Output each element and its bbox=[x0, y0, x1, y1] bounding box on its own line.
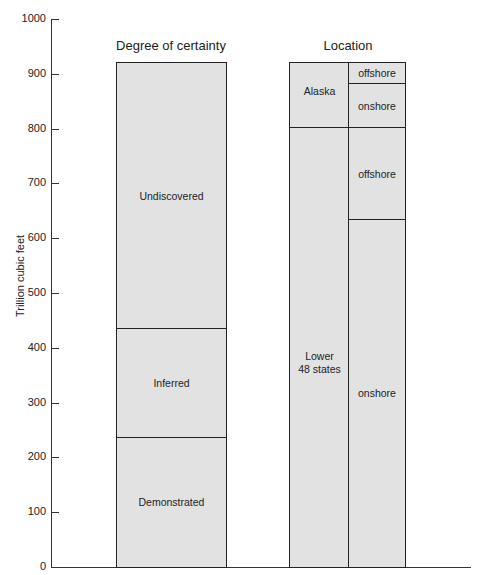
y-tick bbox=[52, 348, 59, 349]
y-tick bbox=[52, 567, 59, 568]
y-tick bbox=[52, 512, 59, 513]
y-tick bbox=[52, 183, 59, 184]
title-degree-of-certainty: Degree of certainty bbox=[100, 38, 242, 53]
label-lower48-2: 48 states bbox=[298, 363, 341, 376]
label-onshore: onshore bbox=[358, 100, 396, 113]
y-tick-label: 600 bbox=[10, 231, 46, 243]
label-lower48-1: Lower bbox=[305, 350, 334, 363]
y-tick bbox=[52, 129, 59, 130]
label-alaska: Alaska bbox=[304, 85, 336, 98]
y-tick-label: 900 bbox=[10, 67, 46, 79]
y-tick-label: 200 bbox=[10, 450, 46, 462]
segment-alaska-offshore: offshore bbox=[348, 62, 406, 85]
y-tick bbox=[52, 403, 59, 404]
segment-undiscovered: Undiscovered bbox=[116, 62, 227, 330]
y-tick-label: 400 bbox=[10, 341, 46, 353]
title-location: Location bbox=[290, 38, 406, 53]
label-demonstrated: Demonstrated bbox=[139, 496, 205, 509]
y-tick-label: 0 bbox=[10, 560, 46, 572]
segment-demonstrated: Demonstrated bbox=[116, 437, 227, 568]
label-undiscovered: Undiscovered bbox=[139, 190, 203, 203]
x-axis bbox=[51, 567, 471, 568]
segment-lower48-offshore: offshore bbox=[348, 127, 406, 221]
segment-lower48-onshore: onshore bbox=[348, 219, 406, 568]
y-tick-label: 700 bbox=[10, 176, 46, 188]
y-tick-label: 500 bbox=[10, 286, 46, 298]
y-tick bbox=[52, 74, 59, 75]
label-offshore: offshore bbox=[358, 67, 396, 80]
segment-lower-48: Lower48 states bbox=[289, 127, 350, 568]
y-tick bbox=[52, 238, 59, 239]
segment-alaska: Alaska bbox=[289, 62, 350, 129]
y-tick bbox=[52, 19, 59, 20]
y-tick bbox=[52, 293, 59, 294]
y-tick bbox=[52, 457, 59, 458]
label-inferred: Inferred bbox=[153, 377, 189, 390]
segment-alaska-onshore: onshore bbox=[348, 83, 406, 129]
y-tick-label: 100 bbox=[10, 505, 46, 517]
label-onshore: onshore bbox=[358, 387, 396, 400]
y-tick-label: 300 bbox=[10, 396, 46, 408]
y-tick-label: 1000 bbox=[10, 12, 46, 24]
y-tick-label: 800 bbox=[10, 122, 46, 134]
segment-inferred: Inferred bbox=[116, 328, 227, 439]
label-offshore: offshore bbox=[358, 168, 396, 181]
